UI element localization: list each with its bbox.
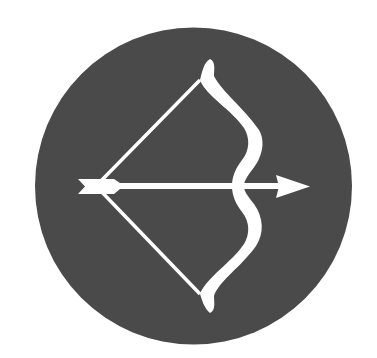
bow-and-arrow-emblem (0, 0, 377, 358)
bow-and-arrow-icon (0, 0, 377, 358)
arrow-shaft (100, 183, 280, 189)
